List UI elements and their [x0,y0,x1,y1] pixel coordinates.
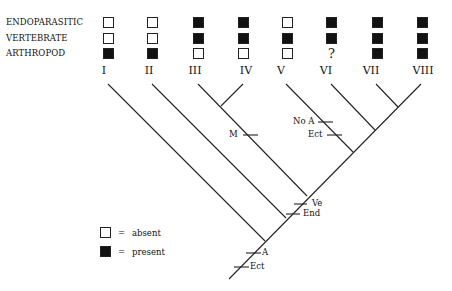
branch-vii [376,84,398,107]
branch-spine [229,84,421,279]
branch-iii [198,84,307,196]
mark-label-m: M [229,129,238,139]
legend-equals-present: = [118,247,125,257]
legend-absent-label: absent [132,228,161,238]
legend-present-swatch [100,246,111,257]
branch-i [108,84,265,241]
mark-label-ect-root: Ect [250,261,264,271]
mark-label-ect-v: Ect [308,129,322,139]
cladogram-tree [0,0,452,291]
mark-label-a: A [262,247,268,257]
mark-label-no-a: No A [293,116,314,126]
branch-iv [221,84,243,106]
legend-present-label: present [132,247,165,257]
branch-vi [331,84,375,130]
branch-ii [152,84,286,218]
legend-absent-swatch [100,227,111,238]
mark-label-ve: Ve [312,198,322,208]
legend-equals-absent: = [118,228,125,238]
mark-label-end: End [303,208,320,218]
